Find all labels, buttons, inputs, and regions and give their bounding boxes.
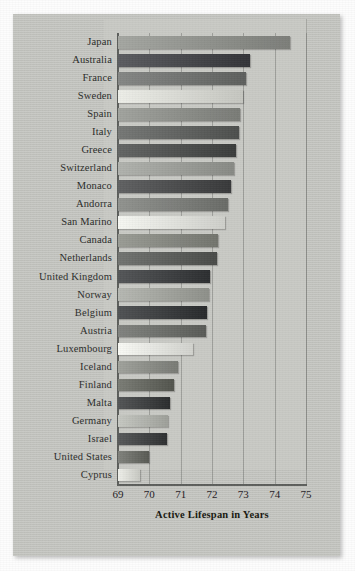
bar [118, 270, 210, 283]
chart-row: Germany [0, 412, 355, 430]
chart-row: Canada [0, 231, 355, 249]
x-axis-line [117, 484, 307, 486]
category-label: San Marino [61, 213, 112, 231]
category-label: Netherlands [60, 249, 112, 267]
category-label: Norway [77, 286, 112, 304]
category-label: Canada [80, 231, 112, 249]
x-axis-tick-labels: 69707172737475 [0, 488, 355, 504]
category-label: Greece [81, 141, 112, 159]
chart-row: Malta [0, 394, 355, 412]
category-label: Iceland [80, 358, 112, 376]
category-label: Cyprus [81, 466, 112, 484]
bar [118, 198, 228, 211]
x-tick-label: 73 [231, 488, 255, 500]
chart-row: Italy [0, 123, 355, 141]
bar [118, 108, 240, 121]
bar [118, 379, 174, 392]
category-label: United Kingdom [39, 268, 112, 286]
category-label: Finland [79, 376, 112, 394]
chart-row: Monaco [0, 177, 355, 195]
chart-row: Finland [0, 376, 355, 394]
chart-row: Switzerland [0, 159, 355, 177]
category-label: Andorra [76, 195, 112, 213]
chart-row: Japan [0, 33, 355, 51]
bar [118, 216, 225, 229]
chart-row: Andorra [0, 195, 355, 213]
bar [118, 252, 217, 265]
chart-row: Sweden [0, 87, 355, 105]
category-label: Switzerland [60, 159, 112, 177]
x-axis-title: Active Lifespan in Years [117, 509, 307, 520]
chart-row: United Kingdom [0, 268, 355, 286]
category-label: Luxembourg [56, 340, 112, 358]
bar [118, 325, 206, 338]
x-tick-label: 71 [169, 488, 193, 500]
category-label: Austria [80, 322, 112, 340]
bar [118, 306, 207, 319]
chart-row: Norway [0, 286, 355, 304]
chart-row: France [0, 69, 355, 87]
bar [118, 397, 170, 410]
bar [118, 54, 250, 67]
chart-row: Iceland [0, 358, 355, 376]
bar [118, 162, 234, 175]
chart-row: Australia [0, 51, 355, 69]
bar [118, 36, 290, 49]
x-tick-label: 70 [137, 488, 161, 500]
bar [118, 126, 239, 139]
bar [118, 180, 231, 193]
bar [118, 433, 167, 446]
category-label: Italy [92, 123, 112, 141]
bars-group: JapanAustraliaFranceSwedenSpainItalyGree… [0, 33, 355, 484]
category-label: Spain [87, 105, 112, 123]
chart-row: Luxembourg [0, 340, 355, 358]
chart-figure: JapanAustraliaFranceSwedenSpainItalyGree… [0, 0, 355, 571]
chart-row: Belgium [0, 304, 355, 322]
bar [118, 469, 140, 482]
bar [118, 288, 209, 301]
category-label: Australia [72, 51, 112, 69]
x-tick-label: 69 [106, 488, 130, 500]
bar [118, 415, 168, 428]
chart-row: Netherlands [0, 249, 355, 267]
category-label: Malta [87, 394, 112, 412]
chart-row: United States [0, 448, 355, 466]
category-label: Germany [72, 412, 112, 430]
bar [118, 343, 193, 356]
bar [118, 361, 178, 374]
chart-row: Israel [0, 430, 355, 448]
x-tick-label: 72 [200, 488, 224, 500]
x-tick-label: 75 [294, 488, 318, 500]
chart-row: Cyprus [0, 466, 355, 484]
chart-row: Spain [0, 105, 355, 123]
category-label: Monaco [77, 177, 112, 195]
category-label: United States [54, 448, 112, 466]
bar [118, 144, 236, 157]
category-label: France [83, 69, 112, 87]
bar [118, 90, 243, 103]
category-label: Belgium [75, 304, 112, 322]
bar [118, 451, 149, 464]
bar [118, 72, 246, 85]
chart-row: San Marino [0, 213, 355, 231]
bar [118, 234, 218, 247]
category-label: Israel [88, 430, 112, 448]
chart-row: Greece [0, 141, 355, 159]
x-tick-label: 74 [263, 488, 287, 500]
chart-row: Austria [0, 322, 355, 340]
category-label: Sweden [78, 87, 112, 105]
category-label: Japan [87, 33, 112, 51]
